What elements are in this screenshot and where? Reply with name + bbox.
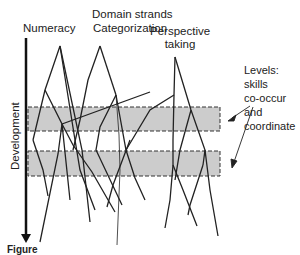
levels-note-line-2: co-occur and: [244, 91, 300, 119]
levels-note-line-1: Levels: skills: [244, 63, 300, 91]
perspective-strand-lines: [126, 57, 218, 236]
strand-label-numeracy: Numeracy: [23, 22, 75, 35]
diagram-title: Domain strands: [92, 8, 173, 21]
strand-label-perspective-taking: Perspective taking: [150, 25, 210, 51]
levels-note: Levels: skills co-occur and coordinate: [244, 63, 300, 133]
development-arrow-icon: [21, 38, 31, 243]
figure-caption: Figure: [7, 244, 38, 255]
axis-label-development: Development: [9, 102, 21, 170]
categorization-strand-lines: [62, 46, 150, 245]
levels-note-line-3: coordinate: [244, 119, 300, 133]
